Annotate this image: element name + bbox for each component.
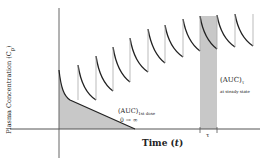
- auc-steady-state-area: [200, 16, 217, 129]
- auc-tau-label: (AUC)τ: [220, 76, 244, 85]
- auc-first-dose-label: (AUC)1st dose: [118, 107, 155, 116]
- y-axis-label: Plasma Concentration (Cp): [5, 40, 14, 140]
- auc-tau-note: at steady state: [220, 89, 250, 94]
- auc-first-dose-range: 0 → ∞: [120, 116, 138, 123]
- tau-label: τ: [206, 131, 209, 138]
- multiple-dose-curve: [78, 14, 253, 100]
- x-axis-label: Time (t): [142, 138, 183, 148]
